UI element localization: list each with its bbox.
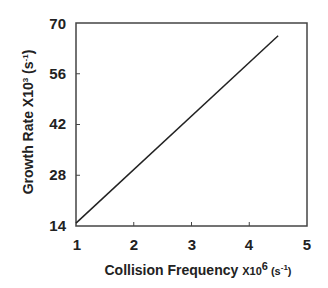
y-tick-42: 42 bbox=[49, 115, 66, 132]
x-tick-1: 1 bbox=[73, 236, 81, 253]
x-tick-4: 4 bbox=[245, 236, 254, 253]
y-axis-label: Growth Rate X103 (s-1) bbox=[20, 50, 36, 195]
y-tick-56: 56 bbox=[49, 65, 66, 82]
y-tick-28: 28 bbox=[49, 166, 66, 183]
growth-rate-line bbox=[76, 36, 278, 223]
y-tick-labels: 14 28 42 56 70 bbox=[49, 15, 66, 234]
x-tick-2: 2 bbox=[130, 236, 138, 253]
x-tick-labels: 1 2 3 4 5 bbox=[73, 236, 311, 253]
y-tick-70: 70 bbox=[49, 15, 66, 32]
x-tick-3: 3 bbox=[188, 236, 196, 253]
x-axis-label: Collision Frequency X106 (s-1) bbox=[104, 260, 291, 278]
x-tick-5: 5 bbox=[303, 236, 311, 253]
plot-frame bbox=[76, 23, 307, 226]
y-tick-14: 14 bbox=[49, 217, 66, 234]
chart-canvas: 14 28 42 56 70 1 2 3 4 5 Collision Frequ… bbox=[0, 0, 328, 288]
